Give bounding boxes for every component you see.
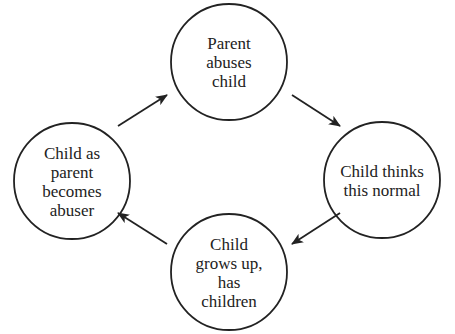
node-label-line: abuser [50,201,95,220]
node-child-thinks-normal: Child thinksthis normal [324,122,440,238]
node-child-becomes-abuser: Child asparentbecomesabuser [14,123,130,239]
node-label-line: grows up, [195,254,262,273]
node-label-line: parent [51,163,94,182]
node-label-line: children [201,292,257,311]
node-label-line: this normal [344,181,421,200]
node-label: Child thinksthis normal [340,162,424,200]
node-label-line: becomes [42,182,101,201]
node-label-line: child [212,72,246,91]
node-label-line: abuses [206,53,251,72]
cycle-of-abuse-diagram: Parentabuseschild Child thinksthis norma… [0,0,455,334]
node-label-line: has [218,273,241,292]
node-label-line: Parent [207,34,251,53]
arrow-icon-bottom-right [292,213,340,244]
arrow-icon-top-left [118,95,167,126]
arrow-icon-top-right [292,95,340,126]
node-parent-abuses-child: Parentabuseschild [171,4,287,120]
node-label-line: Child thinks [340,162,424,181]
node-label: Child asparentbecomesabuser [42,144,101,220]
node-label-line: Child [210,235,248,254]
node-label: Parentabuseschild [206,34,251,91]
node-child-grows-up: Childgrows up,haschildren [171,214,287,330]
node-label-line: Child as [44,144,100,163]
arrow-icon-bottom-left [118,213,167,244]
